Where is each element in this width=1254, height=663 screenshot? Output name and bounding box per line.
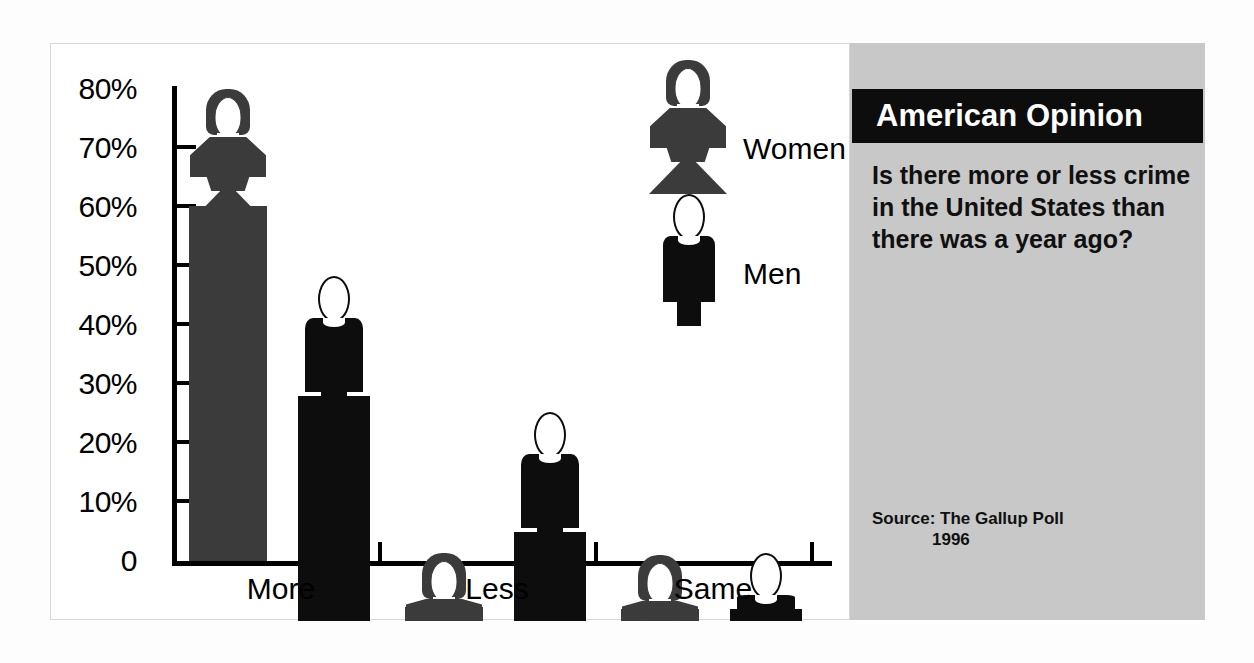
man-legs-icon — [321, 388, 347, 412]
man-head-icon — [318, 276, 350, 322]
xtick-label-more: More — [201, 574, 361, 604]
ytick-label-0: 0 — [51, 546, 137, 576]
legend-swatch-women — [649, 60, 727, 192]
ytick-label-80: 80% — [51, 74, 137, 104]
figure-root: 80% 70% 60% 50% 40% 30% 20% 10% 0 — [0, 0, 1254, 663]
man-neck-icon — [539, 454, 561, 463]
xtick-label-same: Same — [633, 574, 793, 604]
side-panel-title-bar: American Opinion — [852, 89, 1203, 143]
pictogram-man-more — [298, 276, 370, 406]
legend-swatch-men — [659, 194, 719, 319]
chart-panel: 80% 70% 60% 50% 40% 30% 20% 10% 0 — [50, 43, 850, 620]
man-torso-icon — [521, 454, 579, 528]
ytick-label-10: 10% — [51, 487, 137, 517]
side-panel-source: Source: The Gallup Poll 1996 — [872, 508, 1192, 551]
side-panel: American Opinion Is there more or less c… — [850, 43, 1205, 620]
y-axis-line — [172, 86, 177, 566]
side-panel-title: American Opinion — [876, 99, 1143, 133]
man-legs-icon — [677, 298, 701, 326]
man-neck-icon — [323, 318, 345, 327]
xtick-separator-1 — [378, 542, 382, 561]
woman-skirt-icon — [649, 154, 727, 194]
xtick-separator-2 — [594, 542, 598, 561]
legend-label-men[interactable]: Men — [743, 259, 801, 289]
xtick-label-less: Less — [417, 574, 577, 604]
ytick-label-40: 40% — [51, 310, 137, 340]
ytick-label-20: 20% — [51, 428, 137, 458]
bar-women-more[interactable] — [189, 206, 267, 561]
ytick-label-50: 50% — [51, 251, 137, 281]
man-torso-icon — [305, 318, 363, 392]
pictogram-man-less — [514, 412, 586, 542]
woman-torso-icon — [650, 108, 726, 162]
xtick-separator-3 — [810, 542, 814, 561]
man-legs-icon — [537, 524, 563, 548]
ytick-label-70: 70% — [51, 133, 137, 163]
man-head-icon — [534, 412, 566, 458]
ytick-label-30: 30% — [51, 369, 137, 399]
man-head-icon — [673, 194, 705, 240]
man-neck-icon — [678, 236, 700, 245]
woman-face-icon — [675, 68, 702, 108]
woman-face-icon — [215, 97, 242, 137]
man-torso-icon — [663, 236, 715, 302]
legend-label-women[interactable]: Women — [743, 134, 846, 164]
woman-skirt-icon — [189, 183, 267, 223]
legend: Women Men — [631, 54, 851, 244]
plot-area: 80% 70% 60% 50% 40% 30% 20% 10% 0 — [51, 44, 851, 621]
pictogram-woman-more — [189, 89, 267, 221]
source-label: Source: The Gallup Poll — [872, 509, 1064, 528]
side-panel-question: Is there more or less crime in the Unite… — [872, 159, 1192, 255]
source-year: 1996 — [872, 529, 1192, 550]
woman-torso-icon — [190, 137, 266, 191]
ytick-label-60: 60% — [51, 192, 137, 222]
